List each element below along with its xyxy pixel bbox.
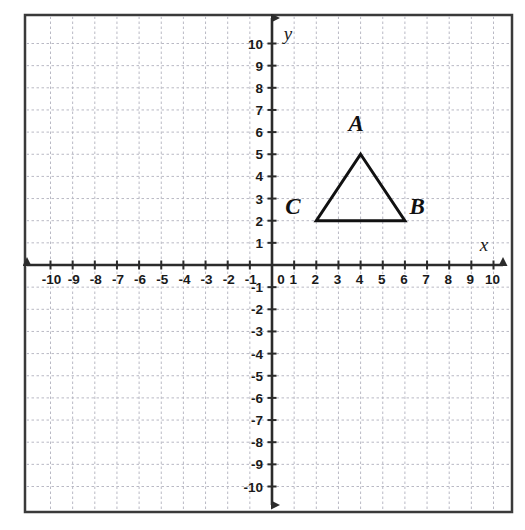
y-axis-tick-label: -2 <box>251 302 263 317</box>
y-axis-tick-label: -3 <box>251 324 263 339</box>
y-axis-tick-label: 10 <box>248 37 263 52</box>
coordinate-plane-svg: -10-9-8-7-6-5-4-3-2-10123456789101234567… <box>0 0 525 530</box>
x-axis-tick-label: -6 <box>134 272 146 287</box>
y-axis-tick-label: 6 <box>255 125 263 140</box>
y-axis-tick-label: 9 <box>255 59 263 74</box>
y-axis-tick-label: 2 <box>255 214 263 229</box>
y-axis-tick-label: -8 <box>251 435 263 450</box>
x-axis-tick-label: 3 <box>334 272 342 287</box>
y-axis-tick-label: 8 <box>255 81 263 96</box>
y-axis-tick-label: 1 <box>255 236 263 251</box>
x-axis-tick-label: 7 <box>422 272 430 287</box>
y-axis-tick-label: -5 <box>251 369 263 384</box>
y-axis-tick-label: -10 <box>243 480 263 495</box>
y-axis-tick-label: -6 <box>251 391 263 406</box>
x-axis-tick-label: 8 <box>444 272 452 287</box>
y-axis-tick-label: 3 <box>255 192 263 207</box>
x-axis-tick-label: 9 <box>467 272 475 287</box>
plot-border <box>25 15 512 512</box>
y-axis-tick-label: -1 <box>251 280 263 295</box>
vertex-label-a: A <box>346 111 363 136</box>
y-axis-tick-label: -9 <box>251 457 263 472</box>
x-axis-tick-label: 2 <box>312 272 320 287</box>
y-axis-tick-label: 5 <box>255 147 263 162</box>
x-axis-tick-label: -4 <box>178 272 190 287</box>
y-axis-tick-label: -7 <box>251 413 263 428</box>
x-axis-tick-label: -10 <box>42 272 62 287</box>
y-axis-label: y <box>282 23 293 44</box>
vertex-label-c: C <box>285 194 301 219</box>
coordinate-plane-figure: -10-9-8-7-6-5-4-3-2-10123456789101234567… <box>0 0 525 530</box>
x-axis-tick-label: 6 <box>400 272 408 287</box>
x-axis-tick-label: 4 <box>356 272 364 287</box>
y-axis-tick-label: -4 <box>251 347 263 362</box>
x-axis-tick-label: 5 <box>378 272 386 287</box>
x-axis-tick-label: -3 <box>201 272 213 287</box>
y-axis-tick-label: 7 <box>255 103 263 118</box>
vertex-label-b: B <box>408 194 424 219</box>
x-axis-tick-label: -2 <box>223 272 235 287</box>
x-axis-tick-label: 1 <box>289 272 297 287</box>
x-axis-tick-label: -5 <box>156 272 168 287</box>
x-axis-tick-label: -7 <box>112 272 124 287</box>
x-axis-tick-label: -9 <box>68 272 80 287</box>
y-axis-tick-label: 4 <box>255 169 263 184</box>
x-axis-tick-label: 10 <box>485 272 500 287</box>
origin-tick-label: 0 <box>277 272 285 287</box>
x-axis-label: x <box>479 234 489 255</box>
x-axis-tick-label: -8 <box>90 272 102 287</box>
